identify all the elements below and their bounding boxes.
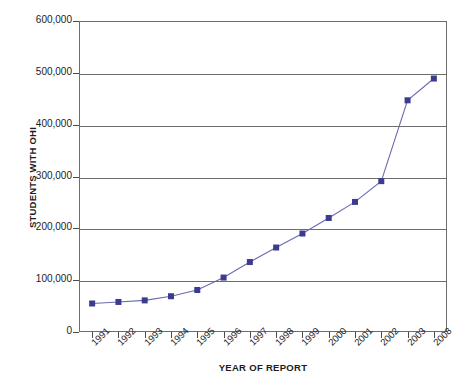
- y-axis-tick-label: 400,000: [16, 118, 72, 129]
- y-axis-tick-label: 600,000: [16, 14, 72, 25]
- gridline: [80, 126, 446, 127]
- y-axis-tick-label: 0: [16, 325, 72, 336]
- plot-area: [79, 21, 447, 332]
- chart-container: STUDENTS WITH OHI 0100,000200,000300,000…: [0, 0, 462, 385]
- gridline: [80, 74, 446, 75]
- gridline: [80, 281, 446, 282]
- gridline: [80, 229, 446, 230]
- x-axis-title: YEAR OF REPORT: [79, 362, 447, 373]
- y-axis-tick: [73, 332, 79, 333]
- y-axis-tick-labels: 0100,000200,000300,000400,000500,000600,…: [14, 0, 72, 385]
- y-axis-tick-label: 500,000: [16, 66, 72, 77]
- y-axis-tick-label: 200,000: [16, 221, 72, 232]
- y-axis-tick-label: 100,000: [16, 273, 72, 284]
- gridline: [80, 178, 446, 179]
- y-axis-tick-label: 300,000: [16, 170, 72, 181]
